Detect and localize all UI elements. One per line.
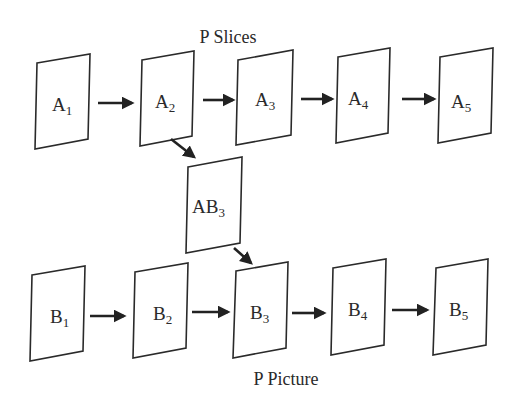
node-b5-sub: 5 xyxy=(462,308,469,323)
node-b2-sub: 2 xyxy=(166,312,173,327)
node-b1-sub: 1 xyxy=(63,315,70,330)
node-a5-label: A xyxy=(451,91,465,112)
arrow-a2-ab3 xyxy=(171,139,194,157)
node-a5: A5 xyxy=(438,48,493,143)
node-ab3: AB3 xyxy=(186,157,242,253)
node-a3: A3 xyxy=(236,50,293,145)
node-b2: B2 xyxy=(133,263,188,358)
node-a2-label: A xyxy=(155,91,169,112)
node-ab3-sub: 3 xyxy=(218,205,225,220)
node-b1: B1 xyxy=(30,266,85,361)
node-a4-sub: 4 xyxy=(362,97,369,112)
title-p-picture: P Picture xyxy=(254,369,319,389)
node-a5-sub: 5 xyxy=(465,100,472,115)
node-a4: A4 xyxy=(336,48,390,143)
title-p-slices: P Slices xyxy=(200,27,257,47)
arrow-ab3-b3 xyxy=(234,248,251,263)
node-a4-label: A xyxy=(348,88,362,109)
node-a3-label: A xyxy=(255,89,269,110)
node-a1: A1 xyxy=(35,54,90,149)
node-b3-sub: 3 xyxy=(263,311,270,326)
node-b5: B5 xyxy=(433,259,488,355)
p-slices-diagram: P Slices A1 A2 A3 A4 A5 AB3 B1 B2 xyxy=(0,0,522,413)
node-a1-sub: 1 xyxy=(66,103,73,118)
node-a2: A2 xyxy=(140,51,194,146)
node-b4-label: B xyxy=(348,299,361,320)
node-b1-label: B xyxy=(50,306,63,327)
node-b4: B4 xyxy=(331,259,386,355)
node-b3-label: B xyxy=(250,302,263,323)
node-b3: B3 xyxy=(233,262,288,358)
node-b2-label: B xyxy=(153,303,166,324)
node-a3-sub: 3 xyxy=(269,98,276,113)
node-a2-sub: 2 xyxy=(169,100,176,115)
node-a1-label: A xyxy=(52,94,66,115)
node-ab3-label: AB xyxy=(192,196,218,217)
node-b4-sub: 4 xyxy=(361,308,368,323)
node-b5-label: B xyxy=(449,299,462,320)
